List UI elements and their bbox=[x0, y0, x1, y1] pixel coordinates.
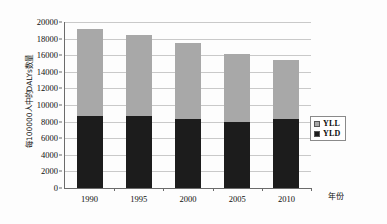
y-axis-tick-label: 6000 bbox=[41, 133, 58, 143]
legend-item: YLD bbox=[314, 129, 341, 138]
bar-series-container bbox=[65, 22, 311, 188]
bar-segment-yll bbox=[175, 43, 201, 119]
y-axis-tick-label: 4000 bbox=[41, 150, 58, 160]
legend-label: YLD bbox=[323, 129, 341, 138]
y-axis-tick-mark bbox=[59, 188, 62, 189]
x-axis-tick-label: 1990 bbox=[81, 194, 98, 204]
x-axis-tick-label: 2005 bbox=[229, 194, 246, 204]
bar-segment-yld bbox=[273, 119, 299, 188]
plot-area: 19901995200020052010 bbox=[64, 22, 311, 189]
bar-group bbox=[126, 35, 152, 188]
x-axis-tick-mark bbox=[114, 188, 115, 191]
x-axis-title: 年份 bbox=[328, 190, 344, 201]
y-axis-tick-label: 8000 bbox=[41, 117, 58, 127]
bar-group bbox=[224, 54, 250, 188]
legend-swatch bbox=[314, 121, 320, 127]
y-axis-tick-mark bbox=[59, 22, 62, 23]
y-axis-tick-label: 20000 bbox=[37, 17, 58, 27]
bar-segment-yld bbox=[175, 119, 201, 188]
x-axis-tick-label: 1995 bbox=[130, 194, 147, 204]
bar-segment-yll bbox=[273, 60, 299, 119]
y-axis-tick-mark bbox=[59, 105, 62, 106]
y-axis-tick-mark bbox=[59, 55, 62, 56]
y-axis-tick-mark bbox=[59, 38, 62, 39]
x-axis-tick-label: 2010 bbox=[278, 194, 295, 204]
y-axis-tick-label: 14000 bbox=[37, 67, 58, 77]
legend-item: YLL bbox=[314, 119, 341, 128]
gridline bbox=[65, 188, 311, 189]
x-axis-tick-mark bbox=[163, 188, 164, 191]
y-axis-tick-label: 16000 bbox=[37, 50, 58, 60]
legend: YLLYLD bbox=[310, 116, 346, 141]
bar-group bbox=[77, 29, 103, 188]
y-axis-tick-label: 0 bbox=[54, 183, 58, 193]
bar-segment-yld bbox=[224, 122, 250, 188]
x-axis-tick-mark bbox=[213, 188, 214, 191]
bar-segment-yld bbox=[126, 116, 152, 188]
x-axis-tick-label: 2000 bbox=[180, 194, 197, 204]
y-axis-tick-mark bbox=[59, 138, 62, 139]
y-axis-tick-label: 2000 bbox=[41, 166, 58, 176]
y-axis-tick-mark bbox=[59, 171, 62, 172]
y-axis-tick-mark bbox=[59, 88, 62, 89]
y-axis-tick-mark bbox=[59, 154, 62, 155]
x-axis-tick-mark bbox=[311, 188, 312, 191]
y-axis-tick-label: 12000 bbox=[37, 83, 58, 93]
legend-swatch bbox=[314, 131, 320, 137]
y-axis-tick-mark bbox=[59, 71, 62, 72]
bar-segment-yll bbox=[77, 29, 103, 116]
bar-chart: 每100000人中的DALYs数量 2000018000160001400012… bbox=[0, 0, 387, 224]
y-axis-tick-labels: 2000018000160001400012000100008000600040… bbox=[0, 22, 62, 188]
bar-group bbox=[273, 60, 299, 188]
y-axis-tick-label: 10000 bbox=[37, 100, 58, 110]
bar-segment-yll bbox=[126, 35, 152, 116]
legend-label: YLL bbox=[323, 119, 340, 128]
bar-group bbox=[175, 43, 201, 188]
y-axis-tick-mark bbox=[59, 121, 62, 122]
y-axis-tick-label: 18000 bbox=[37, 34, 58, 44]
bar-segment-yld bbox=[77, 116, 103, 188]
x-axis-tick-mark bbox=[262, 188, 263, 191]
bar-segment-yll bbox=[224, 54, 250, 121]
